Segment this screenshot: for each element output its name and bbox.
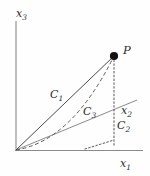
- figure-container: x3 x1 x2 P C1 C3 C2: [0, 0, 150, 176]
- path-c3-label: C3: [83, 105, 96, 120]
- path-c1-line: [16, 56, 114, 150]
- coordinate-diagram: x3 x1 x2 P C1 C3 C2: [0, 0, 150, 176]
- point-p-marker: [110, 52, 118, 60]
- point-p-label: P: [122, 43, 131, 57]
- base-plane-projection-line: [85, 140, 114, 149]
- path-c1-label: C1: [50, 88, 63, 103]
- x2-axis-label: x2: [121, 104, 132, 119]
- path-c2-label: C2: [117, 119, 130, 134]
- x3-axis-label: x3: [16, 7, 27, 22]
- x1-axis-label: x1: [120, 157, 131, 172]
